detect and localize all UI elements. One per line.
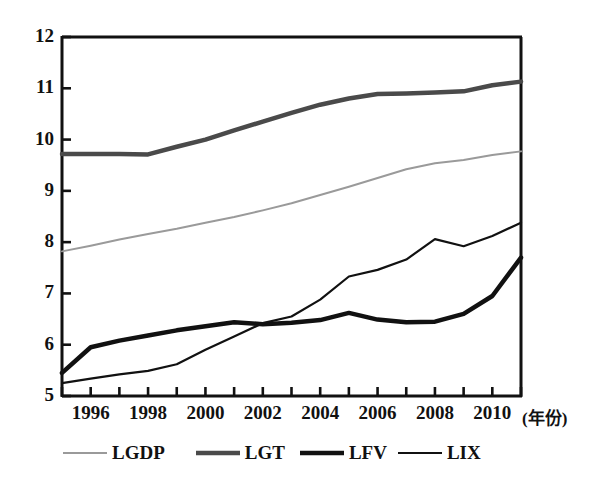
legend-label-lix: LIX — [443, 442, 481, 464]
y-tick-label-9: 9 — [14, 179, 54, 201]
legend-item-lix: LIX — [397, 442, 481, 464]
y-tick-label-5: 5 — [14, 384, 54, 406]
y-tick-label-7: 7 — [14, 281, 54, 303]
x-tick-label-2004: 2004 — [290, 402, 350, 424]
y-tick-label-6: 6 — [14, 333, 54, 355]
data-series-group — [62, 82, 521, 384]
legend-swatch-lfv — [299, 446, 345, 460]
x-tick-label-2000: 2000 — [175, 402, 235, 424]
series-line-lgdp — [62, 151, 521, 251]
x-tick-label-1996: 1996 — [61, 402, 121, 424]
legend-swatch-lgdp — [62, 446, 108, 460]
y-tick-label-8: 8 — [14, 230, 54, 252]
x-tick-label-1998: 1998 — [118, 402, 178, 424]
x-tick-label-2002: 2002 — [233, 402, 293, 424]
x-tick-label-2010: 2010 — [462, 402, 522, 424]
series-line-lgt — [62, 82, 521, 155]
series-line-lfv — [62, 258, 521, 373]
y-tick-label-11: 11 — [14, 76, 54, 98]
y-tick-label-10: 10 — [14, 128, 54, 150]
x-axis-title: (年份) — [522, 404, 567, 429]
legend-swatch-lix — [397, 446, 443, 460]
legend-label-lgt: LGT — [241, 442, 285, 464]
x-tick-label-2006: 2006 — [348, 402, 408, 424]
x-tick-label-2008: 2008 — [405, 402, 465, 424]
line-chart-figure: 5678910111219961998200020022004200620082… — [0, 0, 608, 484]
legend-item-lgt: LGT — [195, 442, 285, 464]
legend-item-lgdp: LGDP — [62, 442, 165, 464]
series-line-lix — [62, 223, 521, 384]
y-tick-label-12: 12 — [14, 25, 54, 47]
legend-label-lgdp: LGDP — [108, 442, 165, 464]
legend-label-lfv: LFV — [345, 442, 387, 464]
legend-swatch-lgt — [195, 446, 241, 460]
chart-legend: LGDP LGT LFV LIX — [62, 438, 522, 468]
legend-item-lfv: LFV — [299, 442, 387, 464]
